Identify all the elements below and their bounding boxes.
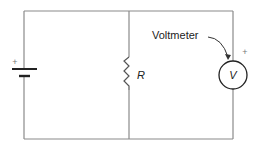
circuit-diagram: + R V + Voltmeter <box>0 0 263 147</box>
voltmeter-callout: Voltmeter <box>152 29 231 60</box>
resistor-symbol: R <box>124 57 145 90</box>
battery-plus-label: + <box>12 57 17 67</box>
voltmeter-callout-label: Voltmeter <box>152 29 199 41</box>
resistor-label: R <box>137 69 145 81</box>
voltmeter-plus-label: + <box>242 47 247 57</box>
callout-arrowhead-icon <box>225 54 231 60</box>
resistor-zigzag <box>124 57 129 90</box>
